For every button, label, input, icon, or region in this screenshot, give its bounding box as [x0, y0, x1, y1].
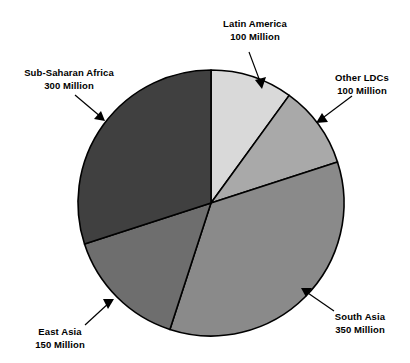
pie-label-east-asia: East Asia 150 Million	[14, 326, 106, 351]
pie-label-south-asia: South Asia 350 Million	[316, 311, 404, 336]
pie-label-sub-saharan-africa: Sub-Saharan Africa 300 Million	[8, 67, 130, 92]
pie-label-south-asia-name: South Asia	[316, 311, 404, 324]
pie-label-latin-america-name: Latin America	[200, 18, 310, 31]
pie-label-south-asia-value: 350 Million	[316, 324, 404, 337]
callout-other-ldcs	[316, 96, 352, 123]
pie-label-sub-saharan-africa-value: 300 Million	[8, 80, 130, 93]
callout-sub-saharan-africa	[75, 95, 105, 121]
pie-slices	[78, 70, 344, 336]
callout-line-south-asia	[305, 291, 334, 311]
callout-line-other-ldcs	[320, 96, 352, 120]
pie-label-latin-america-value: 100 Million	[200, 31, 310, 44]
pie-label-other-ldcs-value: 100 Million	[318, 85, 406, 98]
callout-east-asia	[85, 299, 114, 325]
pie-label-other-ldcs: Other LDCs 100 Million	[318, 72, 406, 97]
pie-label-latin-america: Latin America 100 Million	[200, 18, 310, 43]
callout-arrowhead-other-ldcs	[316, 113, 328, 123]
pie-label-east-asia-value: 150 Million	[14, 339, 106, 352]
callout-line-sub-saharan-africa	[75, 95, 101, 117]
pie-label-sub-saharan-africa-name: Sub-Saharan Africa	[8, 67, 130, 80]
pie-chart-canvas	[0, 0, 410, 363]
pie-chart: Latin America 100 Million Other LDCs 100…	[0, 0, 410, 363]
callout-south-asia	[301, 288, 334, 311]
pie-label-east-asia-name: East Asia	[14, 326, 106, 339]
pie-label-other-ldcs-name: Other LDCs	[318, 72, 406, 85]
